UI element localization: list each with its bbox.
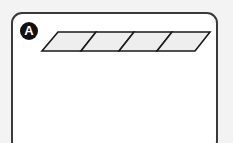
parallelogram-strip (0, 0, 233, 143)
